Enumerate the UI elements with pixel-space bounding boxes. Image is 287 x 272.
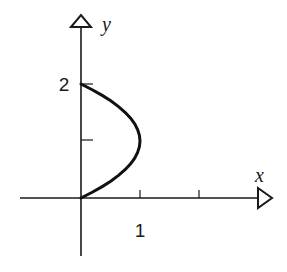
y-axis-label: y <box>100 13 111 36</box>
x-tick-label-1: 1 <box>135 220 146 241</box>
y-axis-arrow-icon <box>71 15 91 27</box>
y-tick-label-2: 2 <box>59 74 70 95</box>
parabola-chart: 1 2 y x <box>0 0 287 272</box>
x-axis-arrow-icon <box>258 188 272 208</box>
x-axis-label: x <box>254 164 264 186</box>
parabola-curve <box>81 84 140 198</box>
